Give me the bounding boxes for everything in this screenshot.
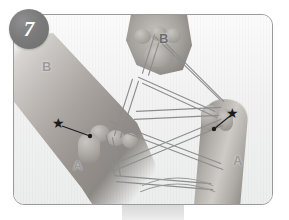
photo-frame: B B A A ★ ★ [13, 14, 273, 205]
star-marker-right: ★ [225, 106, 239, 120]
star-marker-left: ★ [51, 116, 65, 130]
step-number-badge: 7 [9, 9, 49, 49]
photo-inner: B B A A ★ ★ [14, 15, 272, 204]
figure-stage: B B A A ★ ★ 7 [0, 0, 289, 220]
wrist-below-frame [122, 205, 184, 220]
